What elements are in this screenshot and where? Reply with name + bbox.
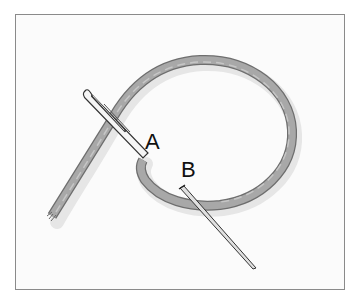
label-b: B	[181, 159, 196, 181]
label-a: A	[145, 131, 160, 153]
stitch-illustration	[0, 0, 357, 302]
